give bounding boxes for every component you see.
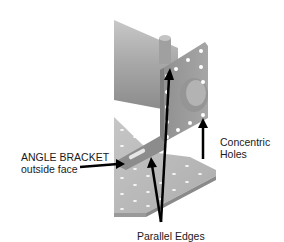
angle-bracket-label-line1: ANGLE BRACKET — [21, 151, 109, 163]
concentric-holes-label: Concentric Holes — [220, 136, 270, 160]
parallel-edges-label: Parallel Edges — [137, 230, 205, 242]
concentric-holes-label-line2: Holes — [220, 148, 270, 160]
assembly-illustration — [0, 0, 284, 242]
concentric-holes-label-line1: Concentric — [220, 136, 270, 148]
diagram-canvas: ANGLE BRACKET outside face Concentric Ho… — [0, 0, 284, 242]
angle-bracket-label: ANGLE BRACKET outside face — [21, 151, 109, 175]
angle-bracket-label-line2: outside face — [21, 163, 109, 175]
